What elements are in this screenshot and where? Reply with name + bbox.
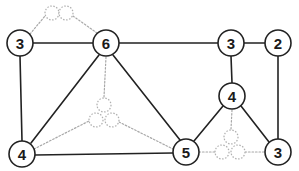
edge-4left-5 bbox=[35, 153, 173, 155]
token-top-left-b[interactable] bbox=[59, 6, 73, 20]
node-n-br-3[interactable]: 3 bbox=[265, 139, 291, 165]
edge-4mid-5 bbox=[194, 106, 223, 141]
token-center-top[interactable] bbox=[97, 98, 111, 112]
edge-4mid-3bottom bbox=[241, 106, 269, 142]
token-center-left[interactable] bbox=[89, 113, 103, 127]
edge-3right-4mid bbox=[231, 56, 232, 83]
dotted-4left-token-d bbox=[34, 121, 89, 149]
node-label-n-tr-2: 2 bbox=[274, 35, 282, 52]
dotted-6-token-c bbox=[104, 57, 106, 97]
token-center-right[interactable] bbox=[105, 113, 119, 127]
token-right-left[interactable] bbox=[215, 145, 229, 159]
node-n-tr-2[interactable]: 2 bbox=[265, 30, 291, 56]
token-right-top[interactable] bbox=[224, 130, 238, 144]
node-label-n-bm-5: 5 bbox=[182, 144, 190, 161]
node-n-tl-3[interactable]: 3 bbox=[7, 30, 33, 56]
diagram-canvas: 36324453 bbox=[0, 0, 299, 171]
node-label-n-br-3: 3 bbox=[274, 144, 282, 161]
dotted-3left-token-a bbox=[30, 16, 45, 34]
node-label-n-mid-4: 4 bbox=[228, 88, 237, 105]
node-n-top-6[interactable]: 6 bbox=[93, 30, 119, 56]
dotted-token-b-6 bbox=[73, 16, 97, 33]
node-layer: 36324453 bbox=[7, 30, 291, 167]
node-label-n-tr-3: 3 bbox=[227, 35, 235, 52]
node-label-n-bl-4: 4 bbox=[18, 146, 27, 163]
node-n-mid-4[interactable]: 4 bbox=[219, 83, 245, 109]
graph-diagram: 36324453 bbox=[0, 0, 299, 171]
token-top-left-a[interactable] bbox=[45, 6, 59, 20]
node-n-bl-4[interactable]: 4 bbox=[9, 141, 35, 167]
dotted-4mid-token-f bbox=[231, 110, 232, 129]
edge-6-5 bbox=[113, 55, 180, 140]
node-n-tr-3[interactable]: 3 bbox=[218, 30, 244, 56]
edge-6-4left bbox=[31, 55, 99, 143]
edge-3left-4left bbox=[20, 56, 22, 141]
node-label-n-tl-3: 3 bbox=[16, 35, 24, 52]
dotted-token-e-5 bbox=[119, 122, 173, 149]
node-label-n-top-6: 6 bbox=[102, 35, 110, 52]
token-right-right[interactable] bbox=[231, 145, 245, 159]
node-n-bm-5[interactable]: 5 bbox=[173, 139, 199, 165]
token-layer bbox=[45, 6, 245, 159]
